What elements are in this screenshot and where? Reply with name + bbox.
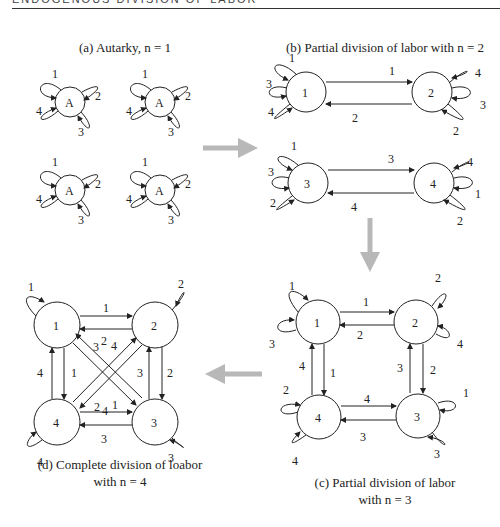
svg-text:3: 3	[480, 98, 486, 112]
svg-text:2: 2	[95, 89, 101, 103]
svg-text:1: 1	[103, 301, 109, 315]
svg-text:4: 4	[475, 66, 481, 80]
svg-text:4: 4	[467, 155, 473, 169]
svg-text:3: 3	[168, 451, 174, 465]
svg-text:2: 2	[270, 196, 276, 210]
svg-text:1: 1	[289, 51, 295, 65]
node-c-2: 2	[412, 316, 418, 330]
svg-text:3: 3	[78, 213, 84, 227]
svg-text:1: 1	[52, 155, 58, 169]
svg-text:3: 3	[397, 361, 403, 375]
panel-a	[40, 84, 187, 216]
node-a-1: A	[65, 96, 74, 110]
svg-text:4: 4	[37, 366, 43, 380]
panel-c-labels: 1 2 3 4 1 2 2 3 4 3 1 4 13 24 13 24	[269, 271, 469, 468]
svg-text:4: 4	[102, 404, 108, 418]
svg-text:3: 3	[388, 152, 394, 166]
svg-text:1: 1	[363, 295, 369, 309]
svg-text:1: 1	[289, 279, 295, 293]
node-a-2: A	[155, 96, 164, 110]
svg-text:3: 3	[269, 337, 275, 351]
svg-text:3: 3	[268, 165, 274, 179]
svg-text:2: 2	[283, 383, 289, 397]
svg-text:2: 2	[185, 89, 191, 103]
panel-d-labels: 1 2 3 4 1 2 2 3 4 3 1 4 1 3 2 4 12 34	[28, 277, 184, 469]
node-c-4: 4	[315, 411, 321, 425]
svg-text:1: 1	[330, 366, 336, 380]
node-b-2: 2	[428, 86, 434, 100]
svg-text:3: 3	[93, 340, 99, 354]
node-b-4: 4	[430, 177, 436, 191]
svg-text:2: 2	[352, 111, 358, 125]
svg-text:2: 2	[357, 328, 363, 342]
svg-text:1: 1	[52, 67, 58, 81]
svg-text:1: 1	[28, 280, 34, 294]
svg-text:3: 3	[434, 447, 440, 461]
node-d-4: 4	[53, 416, 59, 430]
svg-text:3: 3	[168, 213, 174, 227]
svg-text:4: 4	[268, 105, 274, 119]
panel-d	[26, 292, 184, 447]
svg-text:3: 3	[101, 432, 107, 446]
svg-text:4: 4	[126, 104, 132, 118]
svg-text:1: 1	[142, 67, 148, 81]
node-d-1: 1	[53, 319, 59, 333]
svg-text:3: 3	[266, 77, 272, 91]
svg-text:4: 4	[457, 337, 463, 351]
node-b-1: 1	[302, 86, 308, 100]
division-of-labor-diagram: A A A A 1234 1234 1234 1234 1 2 3	[0, 0, 500, 527]
svg-text:4: 4	[292, 454, 298, 468]
svg-text:3: 3	[168, 125, 174, 139]
svg-text:2: 2	[435, 271, 441, 285]
svg-text:1: 1	[389, 64, 395, 78]
panel-b	[269, 65, 472, 210]
svg-text:4: 4	[126, 192, 132, 206]
svg-text:1: 1	[463, 386, 469, 400]
node-c-3: 3	[414, 410, 420, 424]
node-a-3: A	[65, 184, 74, 198]
svg-text:1: 1	[112, 398, 118, 412]
svg-text:2: 2	[95, 177, 101, 191]
svg-text:3: 3	[137, 366, 143, 380]
svg-text:1: 1	[475, 187, 481, 201]
svg-text:2: 2	[185, 177, 191, 191]
node-b-3: 3	[304, 177, 310, 191]
svg-text:2: 2	[178, 277, 184, 291]
svg-text:3: 3	[78, 125, 84, 139]
svg-text:4: 4	[37, 455, 43, 469]
svg-text:4: 4	[36, 104, 42, 118]
svg-text:1: 1	[71, 366, 77, 380]
svg-text:1: 1	[291, 139, 297, 153]
svg-text:2: 2	[453, 124, 459, 138]
svg-text:2: 2	[457, 214, 463, 228]
svg-text:2: 2	[430, 363, 436, 377]
svg-text:1: 1	[142, 155, 148, 169]
svg-text:4: 4	[364, 392, 370, 406]
node-a-4: A	[155, 184, 164, 198]
svg-text:2: 2	[101, 334, 107, 348]
svg-text:3: 3	[360, 430, 366, 444]
svg-text:2: 2	[94, 400, 100, 414]
node-c-1: 1	[314, 316, 320, 330]
svg-text:2: 2	[167, 366, 173, 380]
node-d-3: 3	[151, 416, 157, 430]
svg-text:4: 4	[111, 339, 117, 353]
svg-text:4: 4	[351, 200, 357, 214]
svg-text:4: 4	[299, 359, 305, 373]
svg-text:4: 4	[36, 192, 42, 206]
node-d-2: 2	[151, 319, 157, 333]
